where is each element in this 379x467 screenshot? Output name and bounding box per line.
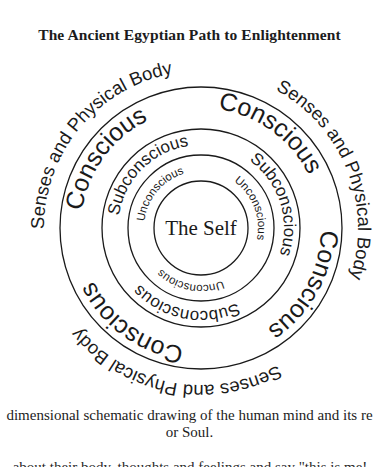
body-text-partial-line: about their body, thoughts and feelings …	[0, 459, 379, 467]
conscious-ring-label: Conscious	[264, 230, 344, 347]
center-label-the-self: The Self	[165, 216, 237, 240]
figure-caption: dimensional schematic drawing of the hum…	[0, 407, 379, 441]
caption-line-2: or Soul.	[0, 424, 379, 441]
unconscious-ring-label: Unconscious	[233, 174, 268, 242]
concentric-circles-diagram: Senses and Physical Body Senses and Phys…	[0, 0, 379, 400]
mind-diagram: Senses and Physical Body Senses and Phys…	[0, 0, 379, 400]
caption-line-1: dimensional schematic drawing of the hum…	[0, 407, 379, 424]
